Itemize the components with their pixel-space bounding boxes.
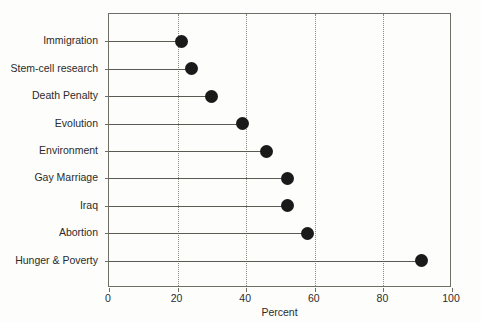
stem-line [109,206,287,207]
y-axis-tick [105,124,109,125]
y-axis-tick [105,233,109,234]
stem-line [109,69,191,70]
gridline-x-80 [383,14,384,286]
y-axis-tick [105,96,109,97]
x-axis-tick-label: 40 [239,292,251,304]
y-axis-label: Hunger & Poverty [15,254,98,266]
y-axis-tick [105,206,109,207]
y-axis-label: Evolution [55,117,98,129]
x-axis-tick-label: 100 [442,292,460,304]
y-axis-tick [105,261,109,262]
x-axis-tick-label: 0 [105,292,111,304]
data-point-marker [281,199,294,212]
y-axis-label: Environment [39,144,98,156]
x-axis-tick-label: 60 [308,292,320,304]
y-axis-tick [105,178,109,179]
data-point-marker [301,227,314,240]
y-axis-label: Gay Marriage [34,171,98,183]
data-point-marker [260,145,273,158]
x-axis-tick-label: 80 [377,292,389,304]
gridline-x-20 [178,14,179,286]
stem-line [109,96,212,97]
y-axis-tick [105,41,109,42]
y-axis-label: Death Penalty [32,89,98,101]
y-axis-label: Stem-cell research [10,62,98,74]
stem-line [109,124,243,125]
stem-line [109,41,181,42]
y-axis-labels: ImmigrationStem-cell researchDeath Penal… [0,13,104,287]
gridline-x-60 [315,14,316,286]
y-axis-label: Immigration [43,34,98,46]
plot-area [108,13,451,287]
dot-plot-chart: ImmigrationStem-cell researchDeath Penal… [0,0,481,322]
y-axis-tick [105,69,109,70]
x-axis-tick-label: 20 [171,292,183,304]
data-point-marker [175,35,188,48]
stem-line [109,178,287,179]
stem-line [109,233,308,234]
data-point-marker [281,172,294,185]
stem-line [109,151,267,152]
data-point-marker [205,90,218,103]
x-axis-title: Percent [108,306,451,318]
y-axis-label: Iraq [80,199,98,211]
data-point-marker [415,254,428,267]
y-axis-label: Abortion [59,226,98,238]
stem-line [109,261,421,262]
data-point-marker [185,62,198,75]
data-point-marker [236,117,249,130]
gridline-x-40 [246,14,247,286]
y-axis-tick [105,151,109,152]
